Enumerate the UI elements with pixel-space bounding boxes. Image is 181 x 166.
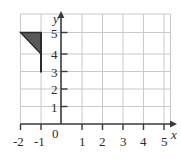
x-tick-label-2: 2: [99, 135, 106, 148]
x-tick-label-3: 3: [120, 135, 127, 148]
x-tick-label-4: 4: [140, 135, 147, 148]
y-tick-label-2: 2: [51, 83, 58, 96]
x-tick-label-1: 1: [79, 135, 86, 148]
horizontal-gridlines: [21, 14, 171, 107]
coordinate-plane-figure: -2 -1 0 1 2 3 4 5 1 2 3 4 5 y x: [0, 0, 181, 166]
origin-label: 0: [52, 127, 59, 140]
x-tick-label-neg2: -2: [13, 135, 24, 148]
y-tick-label-1: 1: [51, 101, 58, 114]
y-tick-label-3: 3: [51, 66, 58, 79]
y-axis-label: y: [53, 12, 59, 25]
x-tick-label-neg1: -1: [34, 135, 45, 148]
x-axis-label: x: [171, 128, 177, 141]
shaded-triangle: [21, 33, 42, 55]
x-tick-label-5: 5: [161, 135, 168, 148]
y-axis-ticks: [61, 33, 68, 107]
vertical-gridlines: [21, 14, 171, 124]
x-axis-ticks: [21, 124, 165, 130]
graph-canvas: [0, 0, 181, 166]
y-tick-label-4: 4: [51, 48, 58, 61]
y-tick-label-5: 5: [51, 27, 58, 40]
